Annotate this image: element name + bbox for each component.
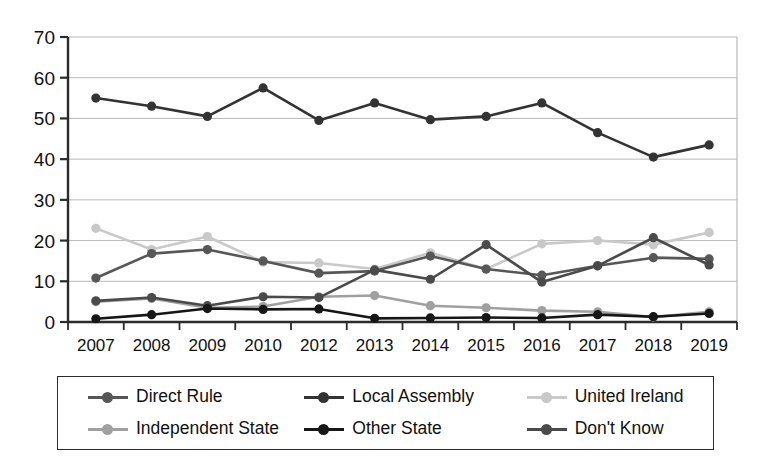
data-point [426,115,435,124]
x-tick-label: 2009 [188,336,226,355]
data-point [370,314,379,323]
data-point [147,249,156,258]
data-point [147,102,156,111]
data-point [203,112,212,121]
series-united-ireland [91,224,713,274]
data-point [91,296,100,305]
data-point [537,98,546,107]
x-tick-label: 2019 [690,336,728,355]
legend-marker-icon [527,390,567,404]
series-local-assembly [91,83,713,161]
data-point [203,232,212,241]
data-point [91,273,100,282]
x-tick-label: 2015 [467,336,505,355]
legend-label: Direct Rule [136,388,223,406]
legend-item-other-state[interactable]: Other State [292,420,516,438]
data-point [649,312,658,321]
legend-marker-icon [304,422,344,436]
legend-marker-icon [304,390,344,404]
data-point [203,245,212,254]
data-point [649,253,658,262]
series-line [96,88,709,157]
legend-row: Direct RuleLocal AssemblyUnited Ireland [58,381,713,413]
y-tick-label: 30 [34,190,55,211]
data-point [426,301,435,310]
x-tick-label: 2017 [579,336,617,355]
data-series-group [91,83,713,323]
data-point [314,258,323,267]
data-point [705,260,714,269]
legend-item-independent-state[interactable]: Independent State [58,420,292,438]
data-point [593,128,602,137]
data-point [370,265,379,274]
data-point [203,304,212,313]
legend-marker-icon [88,390,128,404]
legend-item-local-assembly[interactable]: Local Assembly [292,388,516,406]
data-point [482,303,491,312]
data-point [649,233,658,242]
legend-label: Don't Know [575,420,664,438]
y-tick-labels: 706050403020100 [34,27,55,333]
data-point [91,224,100,233]
data-point [259,83,268,92]
data-point [426,275,435,284]
y-tick-label: 10 [34,271,55,292]
x-tick-label: 2018 [634,336,672,355]
legend-label: Local Assembly [352,388,474,406]
data-point [593,236,602,245]
series-direct-rule [91,245,713,283]
series-line [96,238,709,306]
data-point [314,116,323,125]
legend-label: Independent State [136,420,279,438]
chart-legend: Direct RuleLocal AssemblyUnited IrelandI… [57,376,714,450]
data-point [705,228,714,237]
y-tick-label: 40 [34,149,55,170]
data-point [314,269,323,278]
legend-label: United Ireland [575,388,684,406]
data-point [314,304,323,313]
data-point [370,291,379,300]
data-point [147,293,156,302]
x-tick-label: 2014 [411,336,449,355]
x-tick-label: 2013 [356,336,394,355]
series-don-t-know [91,233,713,310]
data-point [259,305,268,314]
data-point [537,239,546,248]
data-point [91,314,100,323]
data-point [705,140,714,149]
data-point [593,261,602,270]
x-tick-label: 2016 [523,336,561,355]
x-tick-label: 2012 [300,336,338,355]
data-point [482,264,491,273]
data-point [426,251,435,260]
gridlines [68,37,737,322]
legend-label: Other State [352,420,442,438]
data-point [482,112,491,121]
x-tick-label: 2008 [133,336,171,355]
data-point [482,240,491,249]
data-point [259,256,268,265]
legend-marker-icon [527,422,567,436]
legend-item-don-t-know[interactable]: Don't Know [517,420,713,438]
x-tick-labels: 2007200820092010201220132014201520162017… [77,336,728,355]
data-point [259,292,268,301]
data-point [482,313,491,322]
y-tick-label: 0 [44,312,55,333]
legend-marker-icon [88,422,128,436]
chart-page: 706050403020100 200720082009201020122013… [0,0,771,473]
y-axis [60,37,737,322]
y-tick-label: 20 [34,231,55,252]
legend-item-direct-rule[interactable]: Direct Rule [58,388,292,406]
data-point [370,98,379,107]
x-tick-label: 2010 [244,336,282,355]
data-point [537,313,546,322]
chart-canvas: 706050403020100 200720082009201020122013… [0,0,771,370]
data-point [705,309,714,318]
data-point [91,93,100,102]
legend-item-united-ireland[interactable]: United Ireland [517,388,713,406]
x-axis [68,322,737,330]
x-tick-label: 2007 [77,336,115,355]
legend-row: Independent StateOther StateDon't Know [58,413,713,445]
data-point [649,153,658,162]
data-point [426,313,435,322]
